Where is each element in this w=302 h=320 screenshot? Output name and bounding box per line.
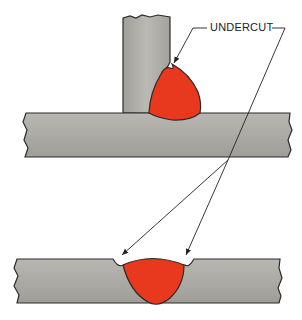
diagram-drawing [0,0,302,320]
horizontal-plate [23,113,292,157]
t-joint [23,15,292,157]
undercut-label: UNDERCUT [210,21,273,33]
undercut-diagram: UNDERCUT [0,0,302,320]
butt-joint [14,259,282,305]
